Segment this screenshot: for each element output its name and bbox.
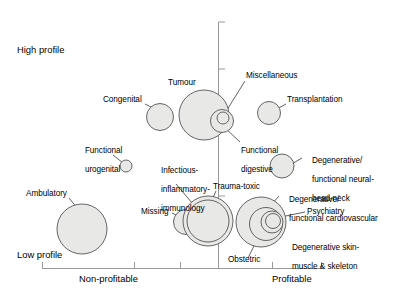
axis-label-high-profile: High profile (17, 44, 64, 55)
functional-urogenital-line-1: Functional (85, 146, 122, 155)
degenerative-skin-line-1: Degenerative skin- (292, 243, 359, 252)
point-label-obstetric: Obstetric (228, 255, 260, 265)
degenerative-cardio-line-1: Degenerative/ (289, 195, 339, 204)
bubble-ambulatory (57, 204, 107, 254)
degenerative-neural-line-1: Degenerative/ (312, 156, 362, 165)
point-label-tumour: Tumour (168, 78, 196, 88)
point-label-psychiatry: Psychiatry (307, 207, 344, 217)
point-label-ambulatory: Ambulatory (26, 189, 67, 199)
point-label-congenital: Congenital (103, 95, 142, 105)
functional-digestive-line-2: digestive (241, 165, 273, 174)
point-label-transplantation: Transplantation (287, 95, 342, 105)
bubble-congenital (147, 104, 174, 131)
point-label-degenerative-skin: Degenerative skin- muscle & skeleton (283, 233, 359, 281)
bubble-psychiatry (266, 214, 281, 229)
functional-digestive-line-1: Functional (241, 146, 278, 155)
infectious-line-1: Infectious- (161, 166, 198, 175)
axis-label-non-profitable: Non-profitable (79, 273, 138, 284)
degenerative-neural-line-2: functional neural- (312, 175, 374, 184)
bubble-chart: High profile Low profile Non-profitable … (0, 0, 399, 301)
point-label-trauma-toxic: Trauma-toxic (213, 182, 260, 192)
bubble-transplantation (258, 102, 281, 125)
functional-urogenital-line-2: urogenital (85, 165, 120, 174)
point-label-functional-digestive: Functional digestive (232, 136, 278, 184)
point-label-miscellaneous: Miscellaneous (246, 71, 297, 81)
bubble-miscellaneous (217, 112, 229, 124)
degenerative-skin-line-2: muscle & skeleton (292, 262, 358, 271)
point-label-missing: Missing (141, 207, 168, 217)
point-label-functional-urogenital: Functional urogenital (76, 136, 122, 184)
infectious-line-2: inflammatory- (161, 185, 210, 194)
axis-label-low-profile: Low profile (17, 249, 62, 260)
